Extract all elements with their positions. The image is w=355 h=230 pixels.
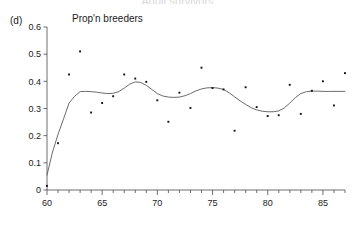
data-point <box>289 84 291 86</box>
data-point <box>90 112 92 114</box>
data-point <box>178 92 180 94</box>
data-point <box>333 105 335 107</box>
data-point <box>145 81 147 83</box>
y-axis: 00.10.20.30.40.50.6 <box>28 22 47 195</box>
y-tick-label: 0.1 <box>28 158 41 168</box>
fit-curve <box>47 82 345 175</box>
data-point <box>101 102 103 104</box>
y-tick-label: 0 <box>36 185 41 195</box>
y-tick-label: 0.3 <box>28 104 41 114</box>
x-tick-label: 75 <box>208 198 218 208</box>
data-point <box>46 185 48 187</box>
x-tick-label: 80 <box>263 198 273 208</box>
y-tick-label: 0.2 <box>28 131 41 141</box>
data-point <box>234 130 236 132</box>
data-point <box>156 99 158 101</box>
data-point <box>79 50 81 52</box>
fit-curve-path <box>47 82 345 175</box>
data-point <box>245 86 247 88</box>
y-tick-label: 0.6 <box>28 22 41 32</box>
data-point <box>278 114 280 116</box>
data-point <box>212 87 214 89</box>
y-tick-label: 0.4 <box>28 77 41 87</box>
x-tick-label: 60 <box>42 198 52 208</box>
x-tick-label: 85 <box>318 198 328 208</box>
data-point <box>57 142 59 144</box>
figure-panel: Adult survivors (d) Prop'n breeders 00.1… <box>0 0 355 230</box>
data-point <box>344 72 346 74</box>
data-point <box>256 106 258 108</box>
data-point <box>68 74 70 76</box>
data-point <box>167 121 169 123</box>
data-point <box>189 107 191 109</box>
data-point <box>112 95 114 97</box>
data-point <box>267 115 269 117</box>
scatter-plot: 00.10.20.30.40.50.6 606570758085 <box>0 0 355 230</box>
x-tick-label: 65 <box>97 198 107 208</box>
data-point <box>134 78 136 80</box>
data-point <box>223 88 225 90</box>
data-point <box>201 67 203 69</box>
data-point <box>300 113 302 115</box>
data-point <box>322 80 324 82</box>
data-points <box>46 50 346 186</box>
x-axis: 606570758085 <box>42 190 345 208</box>
x-tick-label: 70 <box>152 198 162 208</box>
data-point <box>311 90 313 92</box>
data-point <box>123 74 125 76</box>
y-tick-label: 0.5 <box>28 49 41 59</box>
